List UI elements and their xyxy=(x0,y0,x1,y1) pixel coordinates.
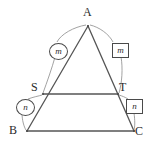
segment-side-AC xyxy=(88,26,134,131)
tag-n-boxed: n xyxy=(126,99,143,114)
vertex-dot-B xyxy=(26,130,28,132)
vertex-label-C: C xyxy=(135,125,143,137)
figure-drawing-canvas xyxy=(0,0,153,150)
leader-arc-n-left-to-S xyxy=(28,95,42,99)
tag-m-circled: m xyxy=(49,43,68,60)
vertex-dot-S xyxy=(42,93,44,95)
tag-n-circled: n xyxy=(16,99,35,116)
tag-m-boxed: m xyxy=(112,43,129,58)
vertex-label-T: T xyxy=(119,81,126,93)
vertex-dot-A xyxy=(87,25,89,27)
vertex-label-B: B xyxy=(9,124,17,136)
leader-arc-m-left-to-A xyxy=(57,25,86,42)
geometry-figure: A B C S T m m n n xyxy=(0,0,153,150)
leader-arc-m-left-to-S xyxy=(43,57,55,93)
vertex-label-S: S xyxy=(31,81,38,93)
vertex-label-A: A xyxy=(83,6,92,18)
